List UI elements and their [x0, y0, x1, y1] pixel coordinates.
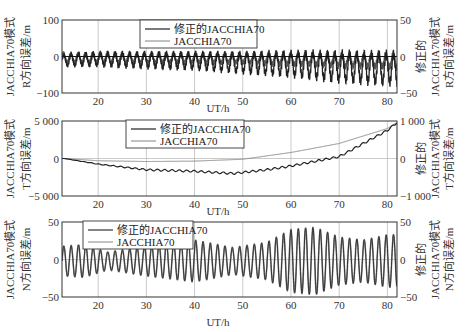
- x-tick-label: 30: [141, 95, 153, 107]
- right-y-tick-label: 0: [400, 254, 406, 266]
- svg-text:修正的: 修正的: [414, 40, 427, 73]
- svg-text:R方向误差/m: R方向误差/m: [442, 25, 455, 88]
- x-tick-label: 70: [334, 299, 346, 311]
- left-y-tick-label: −100: [36, 87, 59, 99]
- right-y-tick-label: 0: [400, 51, 406, 63]
- x-tick-label: 30: [141, 198, 153, 210]
- panel-n-direction: 20304050607080500−50500−50JACCHIA70模式N方向…: [4, 216, 455, 311]
- x-tick-label: 40: [189, 95, 201, 107]
- legend-entry: JACCHIA70: [117, 236, 175, 248]
- left-y-tick-label: 0: [54, 51, 60, 63]
- left-y-axis-label: JACCHIA70模式N方向误差/m: [4, 220, 32, 299]
- left-y-tick-label: 100: [43, 14, 60, 26]
- right-y-axis-label: 修正的JACCHIA70模式R方向误差/m: [414, 17, 455, 96]
- x-tick-label: 80: [382, 95, 394, 107]
- x-tick-label: 40: [189, 299, 201, 311]
- svg-text:JACCHIA70模式: JACCHIA70模式: [4, 119, 16, 198]
- x-tick-label: 20: [93, 198, 105, 210]
- right-y-axis-label: 修正的JACCHIA70模式T方向误差/m: [414, 119, 455, 198]
- svg-text:N方向误差/m: N方向误差/m: [19, 227, 32, 291]
- x-tick-label: 60: [285, 198, 297, 210]
- svg-text:JACCHIA70模式: JACCHIA70模式: [4, 17, 16, 96]
- svg-text:T方向误差/m: T方向误差/m: [442, 127, 455, 190]
- right-y-tick-label: 50: [400, 216, 412, 228]
- right-y-tick-label: 0: [400, 153, 406, 165]
- legend-entry: JACCHIA70: [160, 135, 218, 147]
- x-tick-label: 80: [382, 299, 394, 311]
- series-lines: [62, 49, 397, 87]
- right-y-tick-label: 1 000: [400, 115, 425, 127]
- x-axis-label-r: UT/h: [206, 102, 230, 114]
- legend: 修正的JACCHIA70JACCHIA70: [140, 20, 265, 48]
- panel-r-direction: 203040506070801000−100500−50JACCHIA70模式R…: [4, 14, 455, 107]
- legend-entry: 修正的JACCHIA70: [160, 122, 251, 135]
- figure: 203040506070801000−100500−50JACCHIA70模式R…: [0, 0, 465, 332]
- x-axis-label-t: UT/h: [206, 205, 230, 217]
- svg-text:N方向误差/m: N方向误差/m: [442, 227, 455, 291]
- x-tick-label: 70: [334, 198, 346, 210]
- right-y-axis-label: 修正的JACCHIA70模式N方向误差/m: [414, 220, 455, 299]
- svg-text:修正的: 修正的: [414, 243, 427, 276]
- left-y-tick-label: 5 000: [34, 115, 59, 127]
- left-y-tick-label: −50: [42, 291, 60, 303]
- right-y-tick-label: −1 000: [400, 190, 431, 202]
- legend-entry: JACCHIA70: [174, 35, 232, 47]
- legend: 修正的JACCHIA70JACCHIA70: [126, 120, 251, 148]
- panel-t-direction: 203040506070805 0000−5 0001 0000−1 000JA…: [4, 115, 455, 210]
- x-tick-label: 80: [382, 198, 394, 210]
- x-tick-label: 20: [93, 95, 105, 107]
- x-tick-label: 50: [237, 198, 249, 210]
- legend-entry: 修正的JACCHIA70: [174, 22, 265, 35]
- svg-text:R方向误差/m: R方向误差/m: [19, 25, 32, 88]
- right-y-tick-label: −50: [400, 87, 418, 99]
- left-y-tick-label: 50: [48, 216, 60, 228]
- svg-text:JACCHIA70模式: JACCHIA70模式: [429, 119, 441, 198]
- left-y-axis-label: JACCHIA70模式T方向误差/m: [4, 119, 32, 198]
- left-y-tick-label: 0: [54, 254, 60, 266]
- svg-text:JACCHIA70模式: JACCHIA70模式: [429, 17, 441, 96]
- right-y-tick-label: −50: [400, 291, 418, 303]
- x-tick-label: 40: [189, 198, 201, 210]
- svg-text:JACCHIA70模式: JACCHIA70模式: [429, 220, 441, 299]
- x-tick-label: 50: [237, 95, 249, 107]
- x-tick-label: 30: [141, 299, 153, 311]
- left-y-tick-label: 0: [54, 153, 60, 165]
- left-y-tick-label: −5 000: [28, 190, 59, 202]
- svg-text:修正的: 修正的: [414, 142, 427, 175]
- x-tick-label: 60: [285, 95, 297, 107]
- legend-entry: 修正的JACCHIA70: [117, 223, 208, 236]
- x-tick-label: 70: [334, 95, 346, 107]
- svg-text:T方向误差/m: T方向误差/m: [19, 127, 32, 190]
- left-y-axis-label: JACCHIA70模式R方向误差/m: [4, 17, 32, 96]
- x-tick-label: 50: [237, 299, 249, 311]
- right-y-tick-label: 50: [400, 14, 412, 26]
- svg-text:JACCHIA70模式: JACCHIA70模式: [4, 220, 16, 299]
- x-tick-label: 20: [93, 299, 105, 311]
- legend: 修正的JACCHIA70JACCHIA70: [83, 221, 208, 249]
- x-tick-label: 60: [285, 299, 297, 311]
- x-axis-label-n: UT/h: [206, 316, 230, 328]
